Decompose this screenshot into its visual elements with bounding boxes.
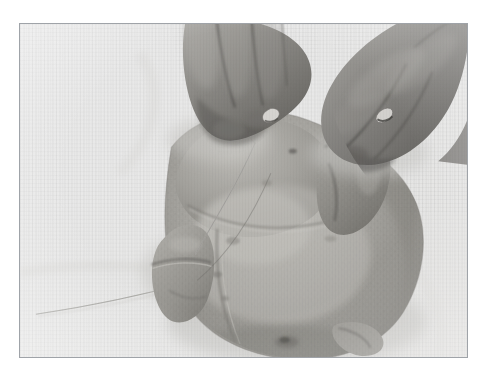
- photo-grain: [20, 24, 467, 357]
- photograph: Black and white photograph: two hands pu…: [20, 24, 467, 357]
- page-root: Black and white photograph: two hands pu…: [0, 0, 490, 379]
- photo-frame: Black and white photograph: two hands pu…: [19, 23, 468, 358]
